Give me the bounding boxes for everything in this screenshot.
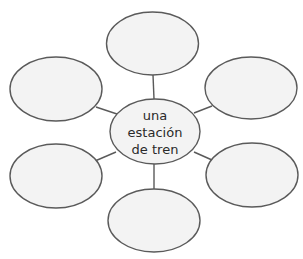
branch-node-lower-right[interactable] <box>206 143 298 207</box>
branch-node-bottom[interactable] <box>108 189 200 252</box>
connector-upper-left <box>96 107 117 114</box>
center-label-line-3: de tren <box>132 142 179 157</box>
connector-top <box>153 75 154 99</box>
center-label-line-1: una <box>143 108 167 123</box>
connector-lower-left <box>95 152 116 161</box>
connector-lower-right <box>194 152 212 160</box>
branch-node-upper-left[interactable] <box>10 57 102 121</box>
word-web-diagram: una estación de tren <box>0 0 303 259</box>
branch-node-top[interactable] <box>107 12 199 75</box>
branch-node-upper-right[interactable] <box>205 57 297 119</box>
center-label-line-2: estación <box>128 125 183 140</box>
connector-upper-right <box>194 106 212 113</box>
branch-node-lower-left[interactable] <box>10 144 102 208</box>
